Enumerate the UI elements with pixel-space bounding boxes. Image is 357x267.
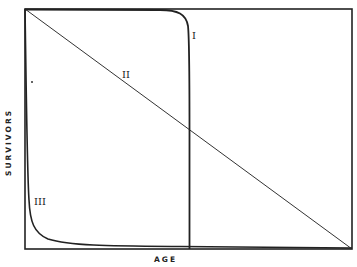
speck-dot [31,81,33,83]
curve-I [25,10,190,250]
curve-label-I: I [192,30,196,41]
curve-label-II: II [122,69,130,80]
survivorship-chart: I II III AGE SURVIVORS [0,0,357,267]
curve-label-III: III [34,196,46,207]
x-axis-label: AGE [154,255,177,264]
y-axis-label: SURVIVORS [4,109,13,176]
